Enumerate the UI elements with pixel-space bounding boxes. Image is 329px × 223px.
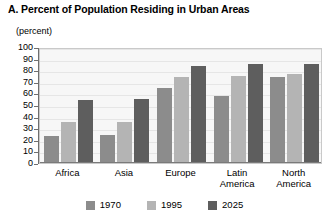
x-axis-category-label: Asia — [96, 167, 153, 178]
chart-title: A. Percent of Population Residing in Urb… — [8, 3, 250, 15]
y-axis-tick-labels: 1009080706050403020100 — [0, 0, 33, 223]
chart-legend: 197019952025 — [0, 200, 329, 210]
y-axis-tick-mark — [34, 106, 38, 107]
bar-group — [157, 49, 206, 163]
bar[interactable] — [117, 122, 132, 163]
y-axis-tick-mark — [34, 71, 38, 72]
y-axis-tick-mark — [34, 118, 38, 119]
x-axis-category-label-line: Latin — [209, 167, 266, 178]
y-axis-tick-label: 20 — [3, 136, 33, 145]
bar[interactable] — [191, 66, 206, 163]
legend-swatch-icon — [208, 201, 217, 210]
y-axis-tick-mark — [34, 48, 38, 49]
x-axis-category-label-line: Europe — [152, 167, 209, 178]
legend-item[interactable]: 2025 — [208, 200, 243, 210]
y-axis-tick-label: 100 — [3, 43, 33, 52]
y-axis-tick-mark — [34, 60, 38, 61]
x-axis-baseline — [40, 162, 321, 163]
legend-label: 2025 — [222, 200, 243, 210]
legend-label: 1970 — [100, 200, 121, 210]
bar-group — [270, 49, 319, 163]
bar-group — [44, 49, 93, 163]
bar-group — [214, 49, 263, 163]
x-axis-category-label: LatinAmerica — [209, 167, 266, 189]
x-axis-category-label-line: America — [265, 178, 322, 189]
bar[interactable] — [100, 135, 115, 163]
y-axis-tick-label: 50 — [3, 101, 33, 110]
x-axis-category-label: Europe — [152, 167, 209, 178]
legend-item[interactable]: 1995 — [147, 200, 182, 210]
legend-item[interactable]: 1970 — [86, 200, 121, 210]
y-axis-tick-label: 80 — [3, 66, 33, 75]
y-axis-tick-mark — [34, 83, 38, 84]
bar[interactable] — [134, 99, 149, 163]
bar[interactable] — [248, 64, 263, 163]
y-axis-tick-label: 60 — [3, 89, 33, 98]
bar[interactable] — [61, 122, 76, 163]
legend-swatch-icon — [86, 201, 95, 210]
y-axis-tick-label: 90 — [3, 55, 33, 64]
y-axis-tick-mark — [34, 164, 38, 165]
x-axis-category-label-line: Africa — [39, 167, 96, 178]
bar[interactable] — [304, 64, 319, 163]
bar[interactable] — [214, 96, 229, 163]
bar[interactable] — [270, 77, 285, 163]
bar[interactable] — [44, 136, 59, 163]
y-axis-tick-label: 0 — [3, 159, 33, 168]
x-axis-category-label-line: Asia — [96, 167, 153, 178]
bar[interactable] — [287, 74, 302, 163]
y-axis-tick-mark — [34, 152, 38, 153]
x-axis-category-label-line: North — [265, 167, 322, 178]
y-axis-tick-label: 70 — [3, 78, 33, 87]
y-axis-tick-mark — [34, 129, 38, 130]
y-axis-tick-label: 30 — [3, 124, 33, 133]
bar[interactable] — [78, 100, 93, 163]
x-axis-category-label-line: America — [209, 178, 266, 189]
bar-group — [100, 49, 149, 163]
y-axis-tick-label: 10 — [3, 147, 33, 156]
legend-swatch-icon — [147, 201, 156, 210]
plot-area — [39, 48, 322, 164]
bar[interactable] — [157, 88, 172, 163]
x-axis-category-label: Africa — [39, 167, 96, 178]
y-axis-tick-mark — [34, 94, 38, 95]
bar[interactable] — [174, 77, 189, 163]
y-axis-tick-label: 40 — [3, 113, 33, 122]
x-axis-category-label: NorthAmerica — [265, 167, 322, 189]
legend-label: 1995 — [161, 200, 182, 210]
y-axis-tick-mark — [34, 141, 38, 142]
bar[interactable] — [231, 76, 246, 163]
